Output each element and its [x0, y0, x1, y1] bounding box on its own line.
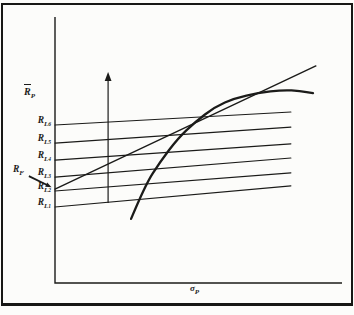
y-axis-label: RP [24, 84, 35, 102]
figure-page: RP RF σP RL1RL2RL3RL4RL5RL6 [0, 0, 354, 315]
y-axis-label-base: R [24, 84, 31, 97]
line-label-rl3: RL3 [38, 167, 51, 182]
line-label-rl4: RL4 [38, 150, 51, 165]
vertical-shift-arrow-head [105, 72, 112, 81]
risk-free-rate-label: RF [13, 164, 24, 179]
x-axis-label-sub: P [195, 288, 199, 296]
y-axis-label-sub: P [31, 92, 35, 100]
capital-market-line [55, 66, 316, 189]
lending-line-RL1 [55, 186, 291, 207]
line-label-rl1: RL1 [38, 197, 51, 212]
lending-line-RL3 [55, 158, 291, 177]
line-label-rl6: RL6 [38, 115, 51, 130]
lending-line-RL2 [55, 173, 291, 191]
lending-line-RL5 [55, 127, 291, 143]
x-axis-label: σP [190, 283, 199, 298]
line-label-rl2: RL2 [38, 181, 51, 196]
line-label-rl5: RL5 [38, 133, 51, 148]
chart-canvas [0, 0, 354, 315]
rf-label-sub: F [19, 169, 24, 177]
lending-line-RL6 [55, 112, 291, 125]
